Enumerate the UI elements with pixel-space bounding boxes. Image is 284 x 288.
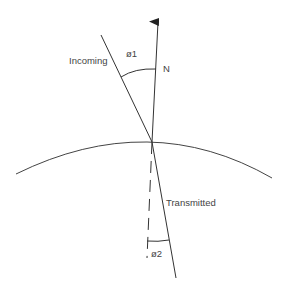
normal-arrow (152, 22, 158, 142)
incident-angle-arc (121, 69, 156, 77)
incident-angle-label: ø1 (126, 48, 137, 59)
interface-curve (16, 142, 272, 178)
transmitted-label: Transmitted (166, 197, 216, 208)
refraction-diagram: Incoming ø1 N Transmitted ø2 (0, 0, 284, 288)
incoming-label: Incoming (69, 55, 108, 66)
transmitted-angle-label: ø2 (151, 248, 162, 259)
normal-label: N (163, 63, 170, 74)
transmitted-angle-arc (147, 240, 169, 241)
